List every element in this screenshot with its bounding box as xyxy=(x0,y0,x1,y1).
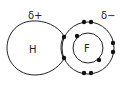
lone-pair-electron xyxy=(111,50,115,54)
delta-plus-label: δ+ xyxy=(28,10,43,21)
hf-bond-diagram: δ+ δ− H F xyxy=(0,0,124,92)
hydrogen-label: H xyxy=(29,44,37,55)
lone-pair-electron xyxy=(89,71,93,75)
lone-pair-electron xyxy=(82,71,86,75)
fluorine-label: F xyxy=(84,43,90,54)
lone-pair-electron xyxy=(89,20,93,24)
shared-electron xyxy=(62,56,66,60)
inner-electron xyxy=(75,34,79,38)
delta-minus-label: δ− xyxy=(101,10,116,21)
lone-pair-electron xyxy=(82,20,86,24)
inner-electron xyxy=(97,58,101,62)
shared-electron xyxy=(62,35,66,39)
lone-pair-electron xyxy=(111,41,115,45)
